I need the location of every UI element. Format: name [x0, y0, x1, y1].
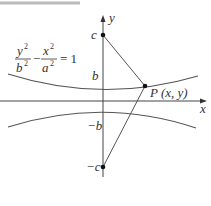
label-P: P (x, y): [149, 85, 188, 100]
point-P: [143, 84, 148, 89]
label-neg-b: −b: [87, 118, 103, 133]
eq-exp-3: 2: [50, 42, 54, 51]
eq-exp-4: 2: [50, 59, 54, 68]
x-axis-label: x: [199, 101, 206, 116]
hyperbola-diagram: y x c b −b −c P (x, y) y 2 b 2 − x 2 a 2…: [0, 0, 211, 206]
hyperbola-equation: y 2 b 2 − x 2 a 2 = 1: [15, 42, 77, 75]
eq-minus: −: [33, 51, 40, 66]
focus-neg-c-point: [101, 165, 106, 170]
label-b: b: [92, 68, 99, 83]
line-c-to-P: [103, 35, 145, 86]
eq-numerator-left: y: [15, 43, 23, 58]
y-axis-arrow-icon: [101, 15, 106, 22]
y-axis-label: y: [107, 10, 115, 25]
y-axis: [101, 15, 106, 177]
line-negc-to-P: [103, 86, 145, 167]
label-c: c: [91, 27, 97, 42]
focus-c-point: [101, 33, 106, 38]
eq-denominator-left: b: [16, 60, 23, 75]
eq-denominator-right: a: [42, 60, 49, 75]
label-neg-c: −c: [86, 159, 101, 174]
eq-equals-one: = 1: [60, 51, 77, 66]
eq-numerator-right: x: [42, 43, 49, 58]
eq-exp-2: 2: [24, 59, 28, 68]
eq-exp-1: 2: [24, 42, 28, 51]
